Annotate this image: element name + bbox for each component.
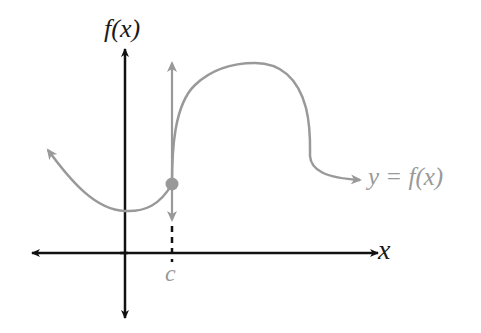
curve-label: y = f(x) xyxy=(368,163,443,191)
function-curve-right xyxy=(172,63,360,184)
function-curve-left xyxy=(48,150,172,211)
x-axis-label: x xyxy=(378,234,390,266)
y-axis-label: f(x) xyxy=(104,14,140,44)
point-c-fc xyxy=(166,178,179,191)
c-label: c xyxy=(165,260,176,287)
